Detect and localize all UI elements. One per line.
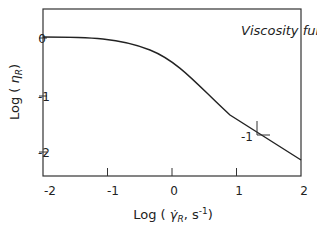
y-tick-label: -2 <box>38 146 50 160</box>
y-axis-label: Log ( ηR) <box>7 64 24 120</box>
x-axis-label-unit: , s <box>184 207 199 222</box>
x-tick-labels: -2 -1 0 1 2 <box>44 184 308 198</box>
slope-label: -1 <box>241 130 253 144</box>
x-axis-label: Log ( γ̇R, s-1) <box>133 206 213 224</box>
x-axis-label-superscript: -1 <box>199 206 208 216</box>
x-tick-label: -1 <box>107 184 119 198</box>
y-axis-label-prefix: Log ( <box>7 84 22 121</box>
y-tick-labels: 0 -1 -2 <box>38 32 50 160</box>
x-tick-label: 2 <box>300 184 308 198</box>
chart: -2 -1 0 1 2 0 -1 -2 -1 Viscosity fun Log… <box>0 0 317 227</box>
y-tick-label: 0 <box>38 32 46 46</box>
viscosity-curve <box>43 37 301 160</box>
y-axis-label-suffix: ) <box>7 64 22 69</box>
y-axis-label-symbol: η <box>7 75 22 83</box>
x-axis-label-prefix: Log ( <box>133 207 170 222</box>
y-tick-label: -1 <box>38 90 50 104</box>
chart-title: Viscosity fun <box>241 23 317 38</box>
x-tick-label: 0 <box>170 184 178 198</box>
x-tick-label: 1 <box>235 184 243 198</box>
x-tick-label: -2 <box>44 184 56 198</box>
x-axis-ticks <box>108 168 237 176</box>
x-axis-label-suffix: ) <box>208 207 213 222</box>
